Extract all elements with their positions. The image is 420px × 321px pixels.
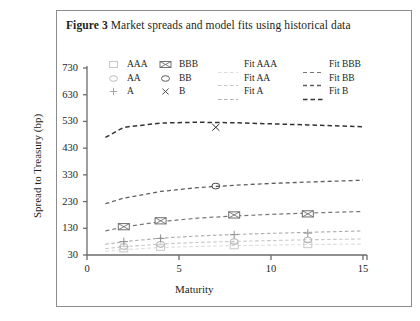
legend-label-fit-a: Fit A xyxy=(244,85,263,99)
circle-marker-icon xyxy=(156,73,174,84)
legend-label-fit-aa: Fit AA xyxy=(244,72,270,86)
legend-label-a: A xyxy=(127,85,134,99)
legend-label-aa: AA xyxy=(127,72,141,86)
figure-caption: Figure 3 Market spreads and model fits u… xyxy=(66,19,351,31)
cross-marker-icon xyxy=(156,86,174,97)
figure-caption-label: Figure 3 xyxy=(66,19,108,31)
y-axis-title: Spread to Treasury (bp) xyxy=(31,86,43,246)
legend-row: AAA BBB Fit AAA Fit BBB xyxy=(104,58,384,72)
legend-label-bbb: BBB xyxy=(179,58,198,72)
legend-label-b: B xyxy=(179,85,185,99)
legend-item-fit-bbb: Fit BBB xyxy=(303,58,384,72)
figure-caption-text: Market spreads and model fits using hist… xyxy=(111,19,351,31)
plus-marker-icon xyxy=(104,86,122,97)
legend-item-fit-bb: Fit BB xyxy=(303,72,384,86)
figure-frame xyxy=(56,10,412,307)
legend-item-fit-b: Fit B xyxy=(303,85,384,99)
legend-label-fit-aaa: Fit AAA xyxy=(244,58,277,72)
square-marker-icon xyxy=(104,59,122,70)
legend-item-fit-aa: Fit AA xyxy=(218,72,303,86)
legend-row: A B Fit A Fit B xyxy=(104,85,384,99)
legend-item-fit-aaa: Fit AAA xyxy=(218,58,303,72)
legend-item-bbb: BBB xyxy=(156,58,218,72)
legend-row: AA BB Fit AA Fit BB xyxy=(104,72,384,86)
legend-label-bb: BB xyxy=(179,72,192,86)
legend-item-aa: AA xyxy=(104,72,156,86)
legend-label-fit-b: Fit B xyxy=(329,85,348,99)
legend-item-bb: BB xyxy=(156,72,218,86)
circle-marker-icon xyxy=(104,73,122,84)
boxed-x-marker-icon xyxy=(156,59,174,70)
legend-item-a: A xyxy=(104,85,156,99)
legend-label-aaa: AAA xyxy=(127,58,148,72)
legend-label-fit-bb: Fit BB xyxy=(329,72,355,86)
legend-item-fit-a: Fit A xyxy=(218,85,303,99)
legend-item-aaa: AAA xyxy=(104,58,156,72)
legend-label-fit-bbb: Fit BBB xyxy=(329,58,361,72)
legend-item-b: B xyxy=(156,85,218,99)
chart-legend: AAA BBB Fit AAA Fit BBB AA xyxy=(104,58,384,99)
